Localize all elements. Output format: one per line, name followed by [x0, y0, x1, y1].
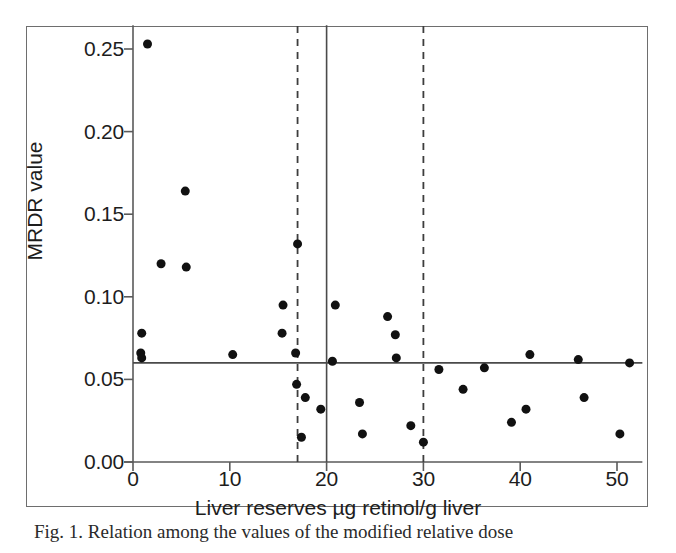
x-tick-label: 30: [412, 468, 435, 489]
x-axis-title: Liver reserves µg retinol/g liver: [0, 497, 676, 519]
y-tick-label: 0.20: [84, 121, 124, 142]
figure-caption-strip: Fig. 1. Relation among the values of the…: [0, 524, 676, 553]
y-axis-title: MRDR value: [24, 106, 46, 296]
y-tick-label: 0.25: [84, 38, 124, 59]
x-tick-label: 10: [218, 468, 241, 489]
x-tick-label: 40: [509, 468, 532, 489]
y-tick-label: 0.05: [84, 368, 124, 389]
y-tick-label: 0.10: [84, 286, 124, 307]
x-tick-label: 20: [315, 468, 338, 489]
y-tick-label: 0.15: [84, 203, 124, 224]
figure-caption: Fig. 1. Relation among the values of the…: [34, 524, 654, 544]
x-tick-label: 50: [606, 468, 629, 489]
x-tick-label: 0: [127, 468, 138, 489]
x-axis-tick-labels: 01020304050: [0, 468, 676, 498]
